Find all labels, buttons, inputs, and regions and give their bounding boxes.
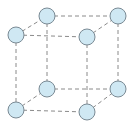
lattice-edges (16, 16, 118, 112)
atom-back-top-left (39, 8, 55, 24)
lattice-atoms (8, 8, 126, 120)
atom-front-bottom-left (8, 102, 24, 118)
atom-front-bottom-right (79, 104, 95, 120)
cubic-lattice-diagram (0, 0, 137, 128)
atom-back-top-right (110, 8, 126, 24)
edge-front-top (16, 35, 87, 37)
atom-back-bottom-left (39, 81, 55, 97)
atom-front-top-left (8, 27, 24, 43)
atom-front-top-right (79, 29, 95, 45)
edge-front-bottom (16, 110, 87, 112)
atom-back-bottom-right (110, 81, 126, 97)
